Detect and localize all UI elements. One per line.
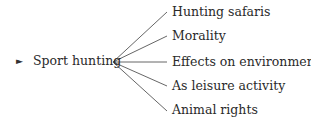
branch-node: As leisure activity — [172, 79, 285, 93]
root-label: Sport hunting — [33, 53, 121, 68]
root-node: ► Sport hunting — [16, 53, 121, 68]
branch-node: Effects on environment — [172, 55, 311, 69]
branch-node: Hunting safaris — [172, 5, 270, 19]
branch-node: Morality — [172, 29, 226, 43]
branch-node: Animal rights — [172, 103, 258, 117]
triangle-bullet-icon: ► — [16, 56, 23, 66]
